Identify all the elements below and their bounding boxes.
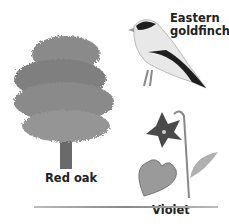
red-oak-label: Red oak <box>45 172 97 185</box>
violet-illustration <box>134 108 224 203</box>
divider <box>34 206 218 208</box>
red-oak-illustration <box>8 34 118 174</box>
goldfinch-label: Eastern goldfinch <box>170 12 229 38</box>
